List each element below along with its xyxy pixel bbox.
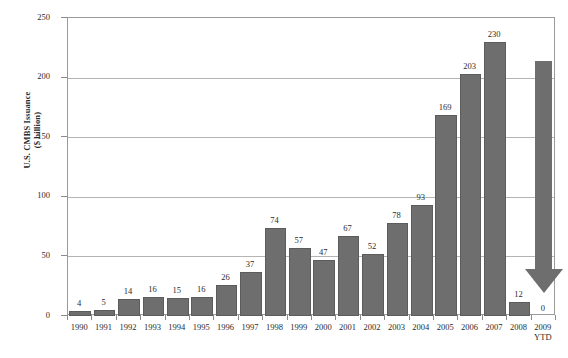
bar-2004: [411, 205, 433, 316]
bar-2003: [387, 223, 409, 316]
bar-value-1995: 16: [181, 285, 221, 294]
x-tick-mark-4: [165, 315, 166, 320]
x-tick-mark-13: [384, 315, 385, 320]
bar-1999: [289, 248, 311, 316]
down-arrow-shaft: [535, 61, 552, 269]
bar-2002: [362, 254, 384, 316]
x-tick-mark-9: [287, 315, 288, 320]
y-tick-mark-250: [61, 17, 67, 18]
x-tick-mark-2: [116, 315, 117, 320]
y-tick-label-0: 0: [14, 311, 50, 320]
bar-value-2008: 12: [498, 290, 538, 299]
x-tick-mark-16: [457, 315, 458, 320]
bar-value-1999: 57: [279, 236, 319, 245]
x-tick-mark-3: [140, 315, 141, 320]
bar-value-2003: 78: [376, 211, 416, 220]
x-tick-mark-14: [409, 315, 410, 320]
bar-2007: [484, 42, 506, 316]
x-tick-mark-10: [311, 315, 312, 320]
x-tick-mark-15: [433, 315, 434, 320]
bar-value-2000: 47: [303, 248, 343, 257]
x-tick-label-sublabel: YTD: [523, 332, 563, 342]
x-tick-label-2009: 2009YTD: [523, 322, 563, 342]
bar-value-1997: 37: [230, 260, 270, 269]
x-tick-label-year: 2009: [534, 322, 551, 332]
y-tick-label-150: 150: [14, 132, 50, 141]
x-tick-mark-1: [91, 315, 92, 320]
y-tick-mark-100: [61, 196, 67, 197]
x-tick-mark-12: [360, 315, 361, 320]
bar-1994: [167, 298, 189, 316]
y-tick-label-100: 100: [14, 191, 50, 200]
y-tick-mark-150: [61, 136, 67, 137]
bar-value-2001: 67: [328, 224, 368, 233]
x-tick-mark-18: [506, 315, 507, 320]
bar-2000: [313, 260, 335, 316]
y-tick-label-250: 250: [14, 13, 50, 22]
bar-value-2004: 93: [401, 193, 441, 202]
x-tick-mark-8: [262, 315, 263, 320]
x-tick-mark-11: [335, 315, 336, 320]
bar-1993: [143, 297, 165, 316]
x-tick-mark-end: [555, 315, 556, 320]
bar-value-2005: 169: [425, 103, 465, 112]
bar-value-1996: 26: [206, 273, 246, 282]
bar-value-2006: 203: [450, 62, 490, 71]
bar-2005: [435, 115, 457, 316]
x-tick-mark-0: [67, 315, 68, 320]
x-tick-mark-5: [189, 315, 190, 320]
y-tick-mark-200: [61, 77, 67, 78]
y-tick-mark-50: [61, 255, 67, 256]
cmbs-issuance-bar-chart: U.S. CMBS Issuance ($ billion) 050100150…: [0, 0, 568, 358]
x-tick-mark-6: [213, 315, 214, 320]
bar-1991: [94, 310, 116, 316]
x-tick-mark-7: [238, 315, 239, 320]
bar-1990: [69, 311, 91, 316]
bar-value-2002: 52: [352, 242, 392, 251]
bar-value-1998: 74: [254, 216, 294, 225]
bar-value-2007: 230: [474, 30, 514, 39]
x-tick-mark-19: [531, 315, 532, 320]
x-tick-mark-17: [482, 315, 483, 320]
y-tick-label-50: 50: [14, 251, 50, 260]
bar-value-1991: 5: [84, 298, 124, 307]
bar-1995: [191, 297, 213, 316]
y-tick-label-200: 200: [14, 72, 50, 81]
bar-value-2009: 0: [523, 304, 563, 313]
